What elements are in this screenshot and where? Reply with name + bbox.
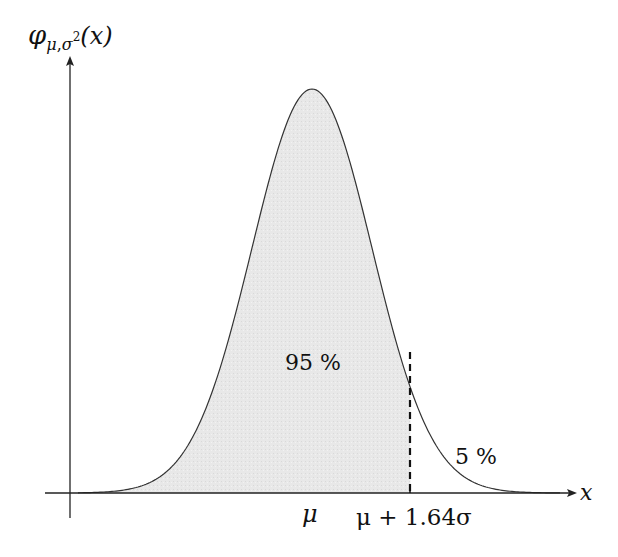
- shaded-95-percent-region: [78, 89, 410, 493]
- y-axis-label: φμ,σ2(x): [28, 20, 113, 54]
- normal-distribution-diagram: φμ,σ2(x) x μ μ + 1.64σ 95 % 5 %: [0, 0, 618, 557]
- inside-percent-label: 95 %: [285, 350, 341, 375]
- cutoff-tick-label: μ + 1.64σ: [356, 504, 472, 530]
- tail-percent-label: 5 %: [455, 444, 497, 469]
- mean-tick-label: μ: [302, 500, 318, 528]
- x-axis-label: x: [580, 480, 593, 505]
